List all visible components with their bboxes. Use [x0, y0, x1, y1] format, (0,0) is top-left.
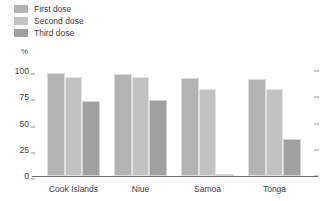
- bar: [248, 79, 266, 176]
- bar: [283, 139, 301, 176]
- x-axis-category-label: Tonga: [225, 184, 325, 194]
- plot-area: [0, 0, 325, 201]
- bar: [199, 89, 217, 176]
- bar: [132, 77, 150, 176]
- bar: [266, 89, 284, 176]
- bar: [114, 74, 132, 176]
- bar: [47, 73, 65, 176]
- bar: [82, 101, 100, 176]
- bar: [181, 78, 199, 176]
- bar-chart: % 0255075100 Cook IslandsNiueSamoaTonga: [0, 0, 325, 201]
- bar: [65, 77, 83, 176]
- bar: [216, 174, 234, 176]
- bar: [149, 100, 167, 176]
